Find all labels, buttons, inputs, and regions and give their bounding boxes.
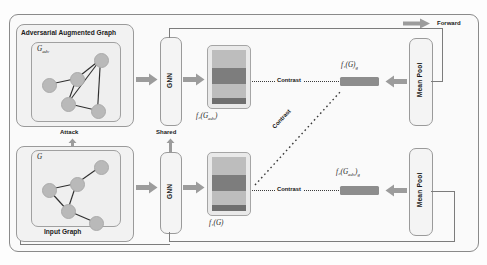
graph-node	[42, 78, 57, 93]
embedding-bottom-tail-sub: g	[357, 172, 359, 177]
contrast-label-bottom: Contrast	[275, 186, 303, 192]
embedding-top-base: f₁(G)	[341, 61, 355, 69]
feature-map-top-inner	[212, 50, 246, 104]
embedding-bar-bottom	[340, 186, 379, 195]
arrow-meanpool-to-embedding-top	[385, 75, 407, 88]
routing-line-top-right-stub	[431, 81, 443, 82]
feature-map-top-label: f₂(Gadv)	[196, 113, 217, 122]
feature-map-stripe	[212, 175, 246, 191]
shared-label: Shared	[156, 129, 176, 135]
feature-map-stripe	[212, 68, 246, 84]
attack-label: Attack	[60, 129, 78, 135]
gnn-encoder-top-label: GNN	[167, 64, 174, 96]
feature-map-top-base: f₂(G	[196, 112, 208, 120]
embedding-bar-top	[340, 77, 379, 86]
embedding-bottom-label: f₂(Gadv)g	[336, 169, 360, 178]
routing-line-top-right-vertical	[442, 28, 443, 81]
adversarial-augmented-graph-title: Adversarial Augmented Graph	[21, 30, 116, 37]
legend-forward-label: Forward	[437, 20, 461, 26]
feature-map-stripe	[212, 84, 246, 98]
graph-node	[94, 53, 109, 68]
mean-pool-bottom-label: Mean Pool	[417, 175, 424, 207]
graph-node	[61, 97, 76, 112]
arrow-input-graph-to-gnn	[136, 181, 158, 194]
arrow-gnn-to-featuremap-top	[183, 73, 205, 86]
graph-node	[70, 72, 85, 87]
diagram-canvas: Forward Adversarial Augmented Graph Gadv…	[0, 0, 487, 265]
routing-line-top-vertical	[169, 28, 170, 38]
feature-map-stripe	[212, 157, 246, 175]
embedding-top-label: f₁(G)g	[341, 62, 358, 71]
gnn-encoder-bottom-label: GNN	[167, 175, 174, 207]
contrast-label-top: Contrast	[275, 77, 303, 83]
embedding-top-sub: g	[355, 65, 357, 70]
input-graph-caption: Input Graph	[44, 229, 81, 236]
routing-line-bottom-right-stub	[431, 191, 455, 192]
feature-map-stripe	[212, 50, 246, 68]
feature-map-bottom-inner	[212, 157, 246, 211]
embedding-bottom-sub: adv	[348, 172, 355, 177]
feature-map-top-sub: adv	[208, 116, 215, 121]
arrow-gnn-to-featuremap-bottom	[183, 181, 205, 194]
feature-map-stripe	[212, 98, 246, 104]
routing-line-bottom-horizontal	[169, 241, 455, 242]
graph-node	[61, 204, 76, 219]
arrow-adv-graph-to-gnn	[136, 73, 158, 86]
graph-node	[70, 177, 85, 192]
feature-map-bottom-label: f₁(G)	[209, 220, 223, 227]
mean-pool-top-label: Mean Pool	[417, 65, 424, 97]
routing-line-top-horizontal	[169, 28, 443, 29]
feature-map-top-tail: )	[215, 112, 217, 120]
feature-map-stripe	[212, 191, 246, 205]
feature-map-stripe	[212, 205, 246, 211]
feature-map-bottom	[207, 152, 251, 216]
graph-node	[91, 104, 106, 119]
arrow-meanpool-to-embedding-bottom	[385, 184, 407, 197]
embedding-bottom-base: f₂(G	[336, 168, 348, 176]
feature-map-top	[207, 45, 251, 109]
graph-node	[94, 160, 109, 175]
contrast-line-diagonal	[250, 86, 346, 190]
routing-line-left-horizontal	[20, 244, 170, 245]
graph-node	[89, 216, 104, 231]
routing-line-bottom-right-vertical	[454, 191, 455, 242]
graph-node	[42, 183, 57, 198]
